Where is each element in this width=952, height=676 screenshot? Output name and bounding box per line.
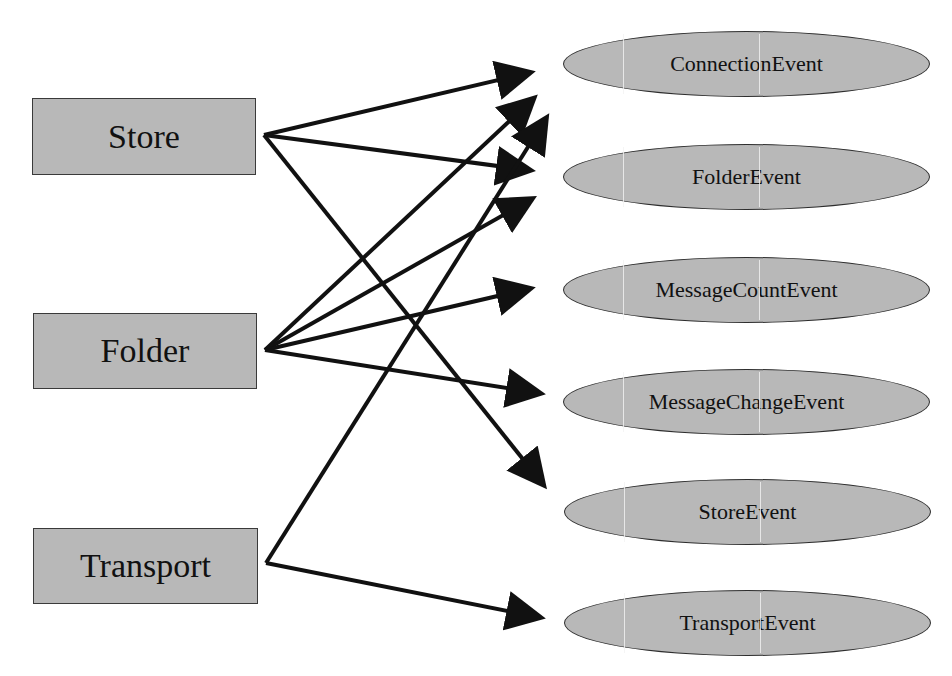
event-node-storeevent: StoreEvent bbox=[564, 479, 931, 545]
seam-decoration bbox=[623, 147, 624, 207]
event-node-transportevent: TransportEvent bbox=[564, 590, 931, 656]
seam-decoration bbox=[624, 593, 625, 653]
source-node-store: Store bbox=[32, 98, 256, 175]
event-label: TransportEvent bbox=[679, 610, 815, 636]
source-label: Transport bbox=[80, 547, 211, 585]
seam-decoration bbox=[759, 34, 760, 94]
seam-decoration bbox=[760, 482, 761, 542]
source-label: Folder bbox=[101, 332, 190, 370]
event-label: FolderEvent bbox=[692, 164, 801, 190]
edge-transport-transportevent bbox=[266, 563, 538, 617]
event-node-messagechangeevent: MessageChangeEvent bbox=[563, 369, 930, 435]
event-label: ConnectionEvent bbox=[670, 51, 823, 77]
edge-folder-messagechangeevent bbox=[265, 350, 538, 393]
edge-folder-connectionevent bbox=[265, 100, 532, 350]
seam-decoration bbox=[623, 34, 624, 94]
seam-decoration bbox=[759, 147, 760, 207]
edge-folder-messagecountevent bbox=[265, 289, 528, 350]
edge-store-storeevent bbox=[264, 135, 542, 483]
event-label: StoreEvent bbox=[699, 499, 797, 525]
seam-decoration bbox=[759, 260, 760, 320]
edge-transport-connectionevent bbox=[266, 120, 545, 563]
event-label: MessageCountEvent bbox=[655, 277, 837, 303]
source-node-transport: Transport bbox=[33, 528, 258, 604]
event-node-messagecountevent: MessageCountEvent bbox=[563, 257, 930, 323]
seam-decoration bbox=[759, 372, 760, 432]
seam-decoration bbox=[624, 482, 625, 542]
source-label: Store bbox=[108, 118, 180, 156]
edge-store-folderevent bbox=[264, 135, 528, 170]
event-label: MessageChangeEvent bbox=[649, 389, 845, 415]
event-node-connectionevent: ConnectionEvent bbox=[563, 31, 930, 97]
edge-store-connectionevent bbox=[264, 73, 528, 135]
event-node-folderevent: FolderEvent bbox=[563, 144, 930, 210]
source-node-folder: Folder bbox=[33, 313, 257, 389]
edge-folder-folderevent bbox=[265, 200, 530, 350]
seam-decoration bbox=[760, 593, 761, 653]
seam-decoration bbox=[623, 260, 624, 320]
seam-decoration bbox=[623, 372, 624, 432]
